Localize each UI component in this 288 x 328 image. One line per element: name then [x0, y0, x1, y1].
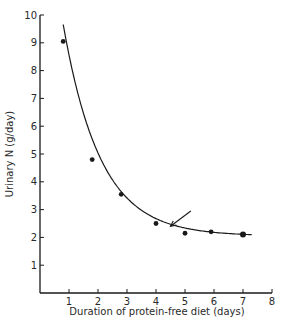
- fitted-curve: [63, 25, 252, 235]
- data-point: [61, 39, 66, 44]
- data-point: [209, 229, 214, 234]
- y-axis-title: Urinary N (g/day): [4, 111, 15, 198]
- data-point: [154, 221, 159, 226]
- y-tick-label: 1: [31, 260, 37, 271]
- data-point: [119, 192, 124, 197]
- y-tick-label: 3: [31, 204, 37, 215]
- data-point: [240, 232, 246, 238]
- y-tick-label: 8: [31, 65, 37, 76]
- annotation-arrow: [171, 211, 191, 226]
- chart: 1234567891012345678 Duration of protein-…: [0, 0, 288, 328]
- data-point: [90, 157, 95, 162]
- data-point: [183, 231, 188, 236]
- y-tick-label: 5: [31, 149, 37, 160]
- data-points: [61, 39, 246, 238]
- y-tick-label: 7: [31, 93, 37, 104]
- y-tick-label: 9: [31, 37, 37, 48]
- y-tick-label: 10: [24, 10, 37, 21]
- y-tick-label: 2: [31, 232, 37, 243]
- x-axis-title: Duration of protein-free diet (days): [69, 306, 244, 317]
- y-tick-label: 4: [31, 176, 37, 187]
- x-tick-label: 8: [269, 296, 275, 307]
- axes: 1234567891012345678: [24, 10, 275, 308]
- y-tick-label: 6: [31, 121, 37, 132]
